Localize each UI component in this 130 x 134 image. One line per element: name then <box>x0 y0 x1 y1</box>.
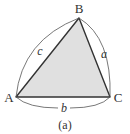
arc-side-b-left <box>16 97 58 108</box>
figure-caption: (a) <box>58 118 71 132</box>
arc-side-b-right <box>70 97 110 108</box>
vertex-label-b: B <box>75 1 84 16</box>
triangle-diagram: B A C c a b (a) <box>0 0 130 134</box>
triangle-abc <box>16 18 110 97</box>
side-label-c: c <box>37 44 43 58</box>
vertex-label-c: C <box>114 90 123 105</box>
vertex-label-a: A <box>4 90 14 105</box>
side-label-a: a <box>101 47 107 61</box>
side-label-b: b <box>61 101 67 115</box>
